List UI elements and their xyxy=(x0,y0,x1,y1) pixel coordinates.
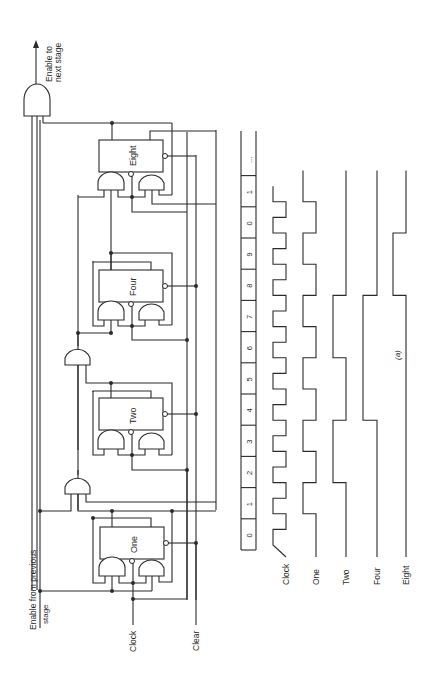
circuit-diagram: Enable to next stage Eight xyxy=(24,40,216,652)
flipflop-two-label: Two xyxy=(128,407,138,424)
count-strip: 012345678901... xyxy=(241,131,256,550)
arrow-up-icon xyxy=(33,40,39,48)
waveform-clock xyxy=(273,186,286,557)
waveform-four xyxy=(363,171,377,557)
count-cell-label: 0 xyxy=(245,221,254,225)
count-cell-label: 5 xyxy=(245,377,254,381)
waveform-label-clock: Clock xyxy=(281,563,291,585)
waveform-label-one: One xyxy=(311,569,321,585)
timing-diagram: 012345678901... ClockOneTwoFourEight (a) xyxy=(241,131,411,585)
count-cell-label: 8 xyxy=(245,284,254,288)
figure-caption: (a) xyxy=(393,350,402,360)
count-cell-label: 0 xyxy=(245,533,254,537)
enable-from-previous-label-2: stage xyxy=(41,604,50,624)
count-cell-label: ... xyxy=(245,157,254,163)
waveform-eight xyxy=(393,171,406,557)
count-cell-label: 6 xyxy=(245,346,254,350)
flipflop-two xyxy=(93,381,198,472)
clock-input-label: Clock xyxy=(128,630,138,652)
and-gate-two xyxy=(38,470,216,513)
count-cell-label: 7 xyxy=(245,315,254,319)
waveform-label-eight: Eight xyxy=(401,565,411,585)
flipflop-one-label: One xyxy=(129,536,139,553)
waveform-labels: ClockOneTwoFourEight xyxy=(281,563,411,585)
flipflop-four-label: Four xyxy=(128,277,138,296)
count-cell-label: 1 xyxy=(245,190,254,194)
count-cell-label: 1 xyxy=(245,502,254,506)
count-cell-label: 3 xyxy=(245,440,254,444)
waveforms xyxy=(273,171,406,557)
waveform-label-four: Four xyxy=(372,567,382,585)
count-cell-label: 2 xyxy=(245,471,254,475)
count-cell-label: 9 xyxy=(245,252,254,256)
enable-next-label-2: next stage xyxy=(53,43,63,82)
flipflop-eight-label: Eight xyxy=(128,145,138,166)
clear-input-label: Clear xyxy=(191,631,201,651)
decade-counter-figure: Enable to next stage Eight xyxy=(0,0,446,682)
waveform-label-two: Two xyxy=(341,569,351,585)
flipflop-one xyxy=(38,470,198,625)
waveform-two xyxy=(333,171,346,557)
count-cell-label: 4 xyxy=(245,408,254,412)
waveform-one xyxy=(303,171,316,557)
enable-from-previous-label: Enable from previous xyxy=(28,550,38,630)
